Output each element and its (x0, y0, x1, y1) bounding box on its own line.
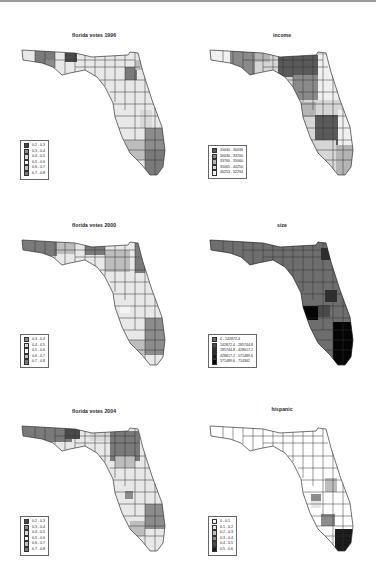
legend-swatch (212, 165, 217, 170)
legend-label: 0.7 - 0.8 (32, 359, 45, 365)
legend-swatch (212, 354, 217, 359)
legend-swatch (24, 171, 29, 176)
legend-label: 0.7 - 0.8 (32, 547, 45, 553)
panel-title: florida votes 1996 (0, 32, 188, 38)
map-legend: 0.3 - 0.4 0.4 - 0.5 0.5 - 0.6 0.6 - 0.7 … (20, 334, 49, 368)
legend-swatch (24, 359, 29, 364)
map-legend: 0 - 0.1 0.1 - 0.2 0.2 - 0.3 0.3 - 0.4 0.… (208, 516, 237, 556)
legend-swatch (24, 154, 29, 159)
legend-swatch (24, 547, 29, 552)
legend-label: 571489.6 - 714362 (220, 359, 250, 365)
legend-item: 571489.6 - 714362 (212, 359, 253, 365)
legend-item: 0.5 - 0.6 (212, 547, 233, 553)
panel-title: size (188, 222, 376, 228)
map-panel-income: income 20030 - 30036 30030 - 33700 33760… (188, 0, 376, 190)
legend-item: 40253 - 52294 (212, 170, 243, 176)
legend-swatch (212, 547, 217, 552)
legend-swatch (212, 170, 217, 175)
map-panel-votes-1996: florida votes 1996 0.2 - 0.3 0.3 - 0.4 0… (0, 0, 188, 190)
panel-title: hispanic (188, 406, 376, 412)
legend-swatch (24, 160, 29, 165)
legend-swatch (212, 159, 217, 164)
legend-swatch (24, 536, 29, 541)
legend-label: 0.5 - 0.6 (220, 547, 233, 553)
map-panel-hispanic: hispanic 0 - 0.1 0.1 - 0.2 0.2 - 0.3 0.3… (188, 380, 376, 570)
panel-title: income (188, 32, 376, 38)
legend-swatch (212, 541, 217, 546)
legend-swatch (24, 519, 29, 524)
legend-swatch (24, 343, 29, 348)
map-legend: 0.2 - 0.3 0.3 - 0.4 0.4 - 0.5 0.5 - 0.6 … (20, 140, 49, 180)
legend-swatch (24, 530, 29, 535)
legend-swatch (212, 525, 217, 530)
panel-title: florida votes 2004 (0, 408, 188, 414)
legend-item: 0.7 - 0.8 (24, 547, 45, 553)
legend-swatch (212, 337, 217, 342)
legend-swatch (24, 354, 29, 359)
legend-swatch (212, 359, 217, 364)
legend-swatch (24, 143, 29, 148)
panel-title: florida votes 2000 (0, 222, 188, 228)
legend-item: 0.7 - 0.8 (24, 171, 45, 177)
map-panel-votes-2000: florida votes 2000 0.3 - 0.4 0.4 - 0.5 0… (0, 190, 188, 380)
legend-label: 0.7 - 0.8 (32, 171, 45, 177)
legend-swatch (212, 148, 217, 153)
map-legend: 0 - 142872.4 142872.4 - 285744.8 285744.… (208, 334, 257, 368)
legend-swatch (212, 536, 217, 541)
legend-swatch (24, 525, 29, 530)
legend-swatch (24, 337, 29, 342)
legend-swatch (212, 154, 217, 159)
map-legend: 20030 - 30036 30030 - 33700 33760 - 3506… (208, 145, 247, 179)
legend-swatch (24, 348, 29, 353)
legend-swatch (24, 149, 29, 154)
map-panel-size: size 0 - 142872.4 142872.4 - 285744.8 28… (188, 190, 376, 380)
legend-item: 0.7 - 0.8 (24, 359, 45, 365)
map-legend: 0.2 - 0.3 0.3 - 0.4 0.4 - 0.5 0.5 - 0.6 … (20, 516, 49, 556)
legend-swatch (212, 348, 217, 353)
legend-swatch (212, 343, 217, 348)
map-panel-votes-2004: florida votes 2004 0.2 - 0.3 0.3 - 0.4 0… (0, 380, 188, 570)
legend-swatch (212, 519, 217, 524)
legend-swatch (24, 165, 29, 170)
legend-swatch (24, 541, 29, 546)
legend-swatch (212, 530, 217, 535)
legend-label: 40253 - 52294 (220, 170, 243, 176)
